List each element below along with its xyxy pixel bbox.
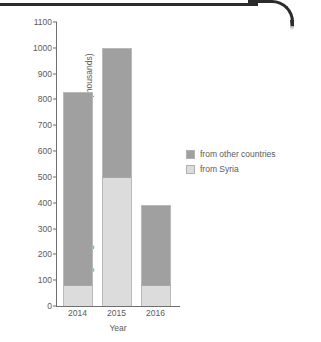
y-axis-tick-mark	[53, 228, 57, 229]
y-axis-tick-mark	[53, 125, 57, 126]
bar-segment-from-other-countries[interactable]	[141, 205, 171, 285]
bar-segment-from-other-countries[interactable]	[63, 92, 93, 286]
bar-segment-from-syria[interactable]	[63, 285, 93, 306]
bar-segment-from-syria[interactable]	[141, 285, 171, 306]
y-axis-tick-mark	[53, 280, 57, 281]
x-axis-title: Year	[56, 324, 180, 333]
x-axis-tick-label: 2014	[58, 309, 98, 318]
bar-2016[interactable]	[141, 205, 171, 306]
y-axis-tick-mark	[53, 306, 57, 307]
bar-2015[interactable]	[102, 48, 132, 306]
y-axis-tick-mark	[53, 47, 57, 48]
x-axis-line	[56, 306, 180, 307]
bar-2014[interactable]	[63, 92, 93, 306]
y-axis-tick-mark	[53, 151, 57, 152]
legend-label: from other countries	[200, 150, 276, 159]
bar-segment-from-other-countries[interactable]	[102, 48, 132, 177]
chart-legend: from other countries from Syria	[186, 148, 276, 178]
y-axis-tick-mark	[53, 99, 57, 100]
scan-edge-top-line	[0, 3, 258, 6]
scan-edge-corner	[248, 0, 294, 26]
legend-swatch-icon-syria	[186, 165, 195, 174]
y-axis-tick-mark	[53, 22, 57, 23]
x-axis-tick-label: 2015	[97, 309, 137, 318]
y-axis-tick-mark	[53, 73, 57, 74]
scan-edge-fade	[290, 20, 294, 30]
bar-segment-from-syria[interactable]	[102, 177, 132, 306]
y-axis-tick-mark	[53, 176, 57, 177]
plot-area: Illegal migrants to the EU from non-EU c…	[57, 22, 174, 306]
x-axis-tick-label: 2016	[136, 309, 176, 318]
legend-item-syria: from Syria	[186, 163, 276, 176]
legend-item-other-countries: from other countries	[186, 148, 276, 161]
legend-swatch-icon-other-countries	[186, 150, 195, 159]
legend-label: from Syria	[200, 165, 239, 174]
chart-screenshot: Illegal migrants to the EU from non-EU c…	[0, 0, 321, 342]
y-axis-tick-mark	[53, 254, 57, 255]
y-axis-tick-mark	[53, 202, 57, 203]
